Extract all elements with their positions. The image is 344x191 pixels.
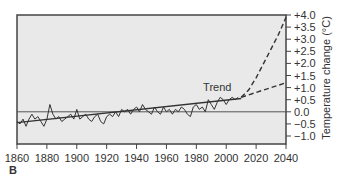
y-axis: +4.0+3.5+3.0+2.5+2.0+1.5+1.0+0.50.0−0.5−… (286, 9, 316, 142)
x-tick-label: 1920 (94, 152, 118, 164)
y-tick-label: +2.5 (294, 45, 316, 57)
y-tick-label: +0.5 (294, 94, 316, 106)
x-tick-label: 1940 (124, 152, 148, 164)
x-axis: 1860188019001920194019601980200020202040 (5, 144, 298, 164)
y-tick-label: −0.5 (294, 118, 316, 130)
y-tick-label: +3.5 (294, 21, 316, 33)
x-tick-label: 1900 (65, 152, 89, 164)
y-tick-label: +4.0 (294, 9, 316, 21)
y-tick-label: −1.0 (294, 130, 316, 142)
y-tick-label: +1.5 (294, 70, 316, 82)
x-tick-label: 2020 (244, 152, 268, 164)
x-tick-label: 1880 (35, 152, 59, 164)
x-tick-label: 1860 (5, 152, 29, 164)
trend-annotation: Trend (203, 81, 231, 93)
plot-area (17, 15, 286, 144)
y-tick-label: +3.0 (294, 33, 316, 45)
y-tick-label: +2.0 (294, 57, 316, 69)
y-tick-label: 0.0 (294, 106, 309, 118)
x-tick-label: 2000 (214, 152, 238, 164)
y-tick-label: +1.0 (294, 82, 316, 94)
y-axis-label: Temperature change (°C) (320, 16, 332, 140)
x-tick-label: 2040 (274, 152, 298, 164)
x-tick-label: 1980 (184, 152, 208, 164)
panel-label: B (9, 164, 17, 176)
x-tick-label: 1960 (154, 152, 178, 164)
temperature-chart: 1860188019001920194019601980200020202040… (0, 0, 344, 191)
